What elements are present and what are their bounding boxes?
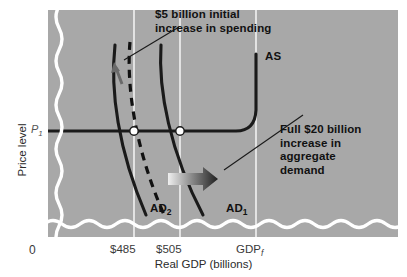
curve-label-ad2-sub: 2: [167, 207, 172, 217]
aggregate-demand-shift-arrow: [168, 167, 218, 191]
x-axis-title: Real GDP (billions): [0, 258, 407, 270]
annotation-initial-line2: increase in spending: [155, 22, 271, 36]
x-tick-label-gdpf-text: GDP: [236, 243, 261, 255]
x-tick-label-505-text: $505: [156, 243, 182, 255]
origin-label: 0: [29, 243, 36, 257]
curve-label-ad1: AD1: [226, 202, 248, 217]
x-tick-label-gdpf-sub: f: [261, 248, 263, 258]
annotation-full-increase: Full $20 billion increase in aggregate d…: [280, 123, 361, 177]
x-tick-label-gdpf: GDPf: [236, 243, 263, 258]
y-tick-label-p1: P1: [31, 123, 43, 138]
x-tick-label-485-text: $485: [110, 243, 136, 255]
curve-label-ad1-text: AD: [226, 202, 243, 214]
curve-label-ad2: AD2: [150, 202, 172, 217]
annotation-full-line2: increase in: [280, 137, 361, 151]
annotation-full-line4: demand: [280, 164, 361, 178]
as-curve: [48, 54, 256, 131]
y-axis-title: Price level: [16, 104, 28, 196]
y-tick-label-p1-sub: 1: [38, 129, 42, 138]
axis-break-wave-horizontal: [48, 221, 398, 228]
annotation-initial-increase: $5 billion initial increase in spending: [155, 8, 271, 35]
curve-label-ad1-sub: 1: [243, 207, 248, 217]
curve-label-as: AS: [265, 50, 281, 64]
curve-label-as-text: AS: [265, 50, 281, 62]
annotation-initial-line1: $5 billion initial: [155, 8, 271, 22]
annotation-full-line3: aggregate: [280, 150, 361, 164]
annotation-full-line1: Full $20 billion: [280, 123, 361, 137]
figure-root: $5 billion initial increase in spending …: [0, 0, 407, 277]
x-tick-label-485: $485: [110, 243, 136, 255]
x-tick-label-505: $505: [156, 243, 182, 255]
curve-label-ad2-text: AD: [150, 202, 167, 214]
axis-break-wave-vertical: [56, 10, 62, 237]
